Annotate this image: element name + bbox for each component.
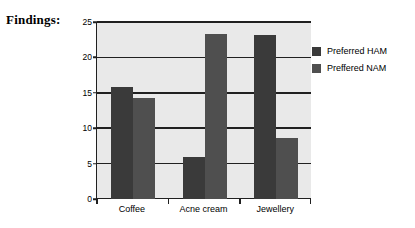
y-tick-label-0: 0 xyxy=(87,195,92,204)
y-tick-label-20: 20 xyxy=(83,53,92,62)
x-axis-label-acne-cream: Acne cream xyxy=(179,205,227,215)
y-tick-mark-25 xyxy=(93,21,97,23)
y-tick-label-15: 15 xyxy=(83,89,92,98)
legend-swatch-icon xyxy=(312,47,321,56)
x-axis: CoffeeAcne creamJewellery xyxy=(96,199,311,227)
x-tick-end xyxy=(310,199,312,204)
legend-label: Preffered NAM xyxy=(327,64,386,73)
bar-chart: 0510152025 CoffeeAcne creamJewellery Pre… xyxy=(0,0,415,228)
y-tick-label-10: 10 xyxy=(83,124,92,133)
bar-acne-cream-preferred-ham xyxy=(183,157,205,199)
y-tick-label-5: 5 xyxy=(87,159,92,168)
x-tick-2 xyxy=(239,199,241,204)
bar-jewellery-preffered-nam xyxy=(276,138,298,199)
y-tick-label-25: 25 xyxy=(83,18,92,27)
x-tick-1 xyxy=(168,199,170,204)
bar-coffee-preferred-ham xyxy=(111,87,133,199)
bar-jewellery-preferred-ham xyxy=(254,35,276,199)
x-tick-0 xyxy=(96,199,98,204)
chart-legend: Preferred HAMPreffered NAM xyxy=(312,44,412,78)
bar-acne-cream-preffered-nam xyxy=(205,34,227,199)
y-tick-mark-5 xyxy=(93,163,97,165)
legend-item-preffered-nam: Preffered NAM xyxy=(312,61,412,76)
x-axis-label-coffee: Coffee xyxy=(119,205,145,215)
y-tick-mark-15 xyxy=(93,92,97,94)
y-tick-mark-20 xyxy=(93,57,97,59)
x-axis-label-jewellery: Jewellery xyxy=(256,205,294,215)
legend-item-preferred-ham: Preferred HAM xyxy=(312,44,412,59)
legend-label: Preferred HAM xyxy=(327,47,387,56)
legend-swatch-icon xyxy=(312,64,321,73)
bar-coffee-preffered-nam xyxy=(133,98,155,199)
gridline-25 xyxy=(97,21,311,23)
plot-area: 0510152025 xyxy=(96,22,311,199)
y-tick-mark-10 xyxy=(93,127,97,129)
